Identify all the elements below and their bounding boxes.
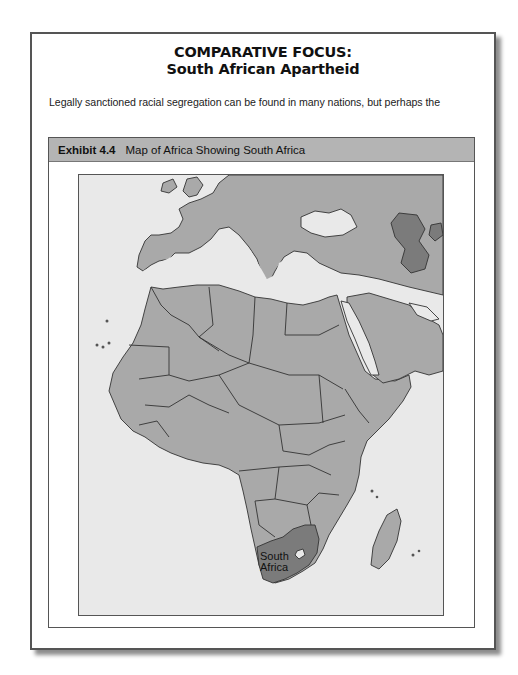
madagascar-landmass bbox=[371, 509, 401, 569]
box-heading: COMPARATIVE FOCUS: South African Aparthe… bbox=[32, 44, 494, 78]
exhibit-number: Exhibit 4.4 bbox=[58, 144, 116, 156]
heading-line-2: South African Apartheid bbox=[32, 61, 494, 78]
africa-map: South Africa bbox=[78, 174, 444, 616]
exhibit-figure: Exhibit 4.4 Map of Africa Showing South … bbox=[48, 137, 475, 628]
heading-line-1: COMPARATIVE FOCUS: bbox=[32, 44, 494, 61]
label-line-2: Africa bbox=[260, 562, 289, 573]
ireland-landmass bbox=[161, 179, 177, 193]
body-paragraph: Legally sanctioned racial segregation ca… bbox=[49, 96, 477, 108]
exhibit-title: Map of Africa Showing South Africa bbox=[126, 144, 306, 156]
exhibit-caption-bar: Exhibit 4.4 Map of Africa Showing South … bbox=[49, 138, 474, 162]
africa-map-svg bbox=[79, 175, 443, 615]
britain-landmass bbox=[183, 177, 203, 197]
south-africa-label: South Africa bbox=[260, 551, 289, 573]
comparative-focus-box: COMPARATIVE FOCUS: South African Aparthe… bbox=[30, 32, 496, 650]
